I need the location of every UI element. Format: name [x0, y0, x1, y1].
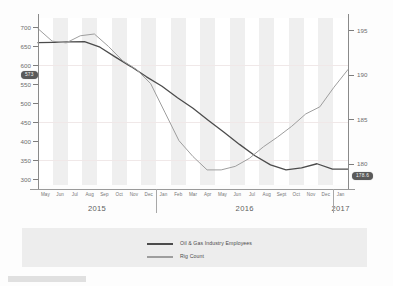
right-tick-label: 195	[357, 27, 381, 34]
month-label: Sept	[277, 192, 287, 197]
month-label: Apr	[204, 192, 211, 197]
month-label: Sep	[100, 192, 108, 197]
left-tick	[33, 27, 38, 28]
left-tick	[33, 46, 38, 47]
bottom-axis	[30, 189, 355, 190]
month-labels: MayJunJulAugSepOctNovDecJanFebMarAprMayJ…	[38, 192, 348, 204]
series-lines	[38, 18, 348, 185]
right-tick	[349, 30, 354, 31]
month-label: Jan	[160, 192, 168, 197]
year-separator	[333, 189, 334, 213]
month-label: Dec	[322, 192, 330, 197]
month-label: Jan	[337, 192, 345, 197]
month-label: Mar	[189, 192, 197, 197]
month-label: Feb	[174, 192, 182, 197]
right-tick	[349, 75, 354, 76]
chart-area: 300350400450500550600650700 180185190195…	[0, 0, 393, 220]
month-label: Aug	[263, 192, 271, 197]
left-tick-label: 550	[9, 81, 31, 88]
left-axis	[38, 14, 39, 189]
month-label: Jul	[72, 192, 78, 197]
left-tick	[33, 179, 38, 180]
plot-area	[38, 18, 348, 185]
year-label: 2017	[332, 204, 350, 213]
series-line-rig-count	[38, 29, 348, 170]
right-tick	[349, 164, 354, 165]
left-tick-label: 400	[9, 138, 31, 145]
month-label: Nov	[130, 192, 138, 197]
right-tick-label: 180	[357, 160, 381, 167]
legend-swatch-rig-count	[147, 256, 173, 258]
month-label: Jun	[56, 192, 64, 197]
left-tick-label: 350	[9, 157, 31, 164]
month-label: Aug	[85, 192, 93, 197]
right-tick	[349, 119, 354, 120]
legend-swatch-employees	[147, 243, 173, 245]
page-artifact	[8, 276, 86, 282]
right-tick-label: 190	[357, 71, 381, 78]
series-line-employees	[38, 42, 348, 170]
left-tick-label: 650	[9, 43, 31, 50]
left-tick-label: 500	[9, 100, 31, 107]
month-label: Nov	[307, 192, 315, 197]
month-label: Jul	[249, 192, 255, 197]
year-label: 2015	[88, 204, 106, 213]
year-separator	[156, 189, 157, 213]
left-tick	[33, 160, 38, 161]
legend: Oil & Gas Industry Employees Rig Count	[22, 228, 367, 267]
month-label: Oct	[293, 192, 300, 197]
value-badge-employees: 573	[21, 71, 38, 79]
left-tick-label: 300	[9, 176, 31, 183]
left-tick	[33, 122, 38, 123]
month-label: May	[41, 192, 50, 197]
chart-screenshot: 300350400450500550600650700 180185190195…	[0, 0, 393, 286]
right-tick-label: 185	[357, 116, 381, 123]
left-tick	[33, 141, 38, 142]
legend-label-employees: Oil & Gas Industry Employees	[180, 239, 252, 248]
value-badge-rig-count: 178.6	[352, 172, 373, 180]
left-tick-label: 700	[9, 24, 31, 31]
month-label: Oct	[115, 192, 122, 197]
left-tick	[33, 65, 38, 66]
month-label: Dec	[144, 192, 152, 197]
left-tick-label: 600	[9, 62, 31, 69]
year-label: 2016	[236, 204, 254, 213]
left-tick-label: 450	[9, 119, 31, 126]
month-label: May	[218, 192, 227, 197]
left-tick	[33, 84, 38, 85]
month-label: Jun	[233, 192, 241, 197]
legend-label-rig-count: Rig Count	[180, 252, 204, 261]
left-tick	[33, 103, 38, 104]
